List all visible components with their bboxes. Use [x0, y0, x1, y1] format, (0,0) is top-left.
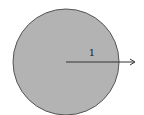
radius-label: 1	[89, 47, 95, 58]
unit-circle-diagram: 1	[0, 0, 144, 115]
